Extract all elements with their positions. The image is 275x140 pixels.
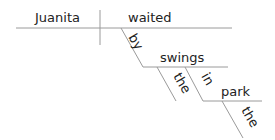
sentence-diagram: Juanita waited by swings the in park the bbox=[0, 0, 275, 140]
prep2-word: in bbox=[198, 70, 217, 88]
verb-word: waited bbox=[128, 10, 172, 25]
art1-slant bbox=[157, 67, 176, 101]
subject-word: Juanita bbox=[34, 10, 80, 25]
art2-word: the bbox=[238, 104, 262, 130]
prep1-word: by bbox=[125, 31, 146, 53]
obj2-word: park bbox=[221, 84, 251, 99]
art1-word: the bbox=[170, 70, 194, 96]
obj1-word: swings bbox=[160, 50, 205, 65]
art2-slant bbox=[222, 101, 243, 138]
